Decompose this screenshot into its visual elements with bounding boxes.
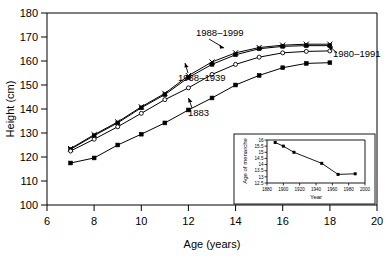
series-annotation-1883: 1883 [188, 107, 209, 118]
y-tick-label: 100 [20, 199, 38, 211]
inset-y-tick-label: 12.5 [255, 181, 264, 186]
inset-y-tick-label: 15.5 [255, 144, 264, 149]
x-tick-label: 16 [277, 215, 289, 227]
inset-x-tick-label: 2000 [360, 187, 371, 192]
x-tick-label: 10 [135, 215, 147, 227]
y-tick-label: 140 [20, 103, 38, 115]
inset-x-tick-label: 1980 [344, 187, 355, 192]
inset-y-axis-title: Age of menarche [242, 137, 248, 183]
y-tick-label: 130 [20, 127, 38, 139]
inset-x-axis-title: Year [310, 194, 322, 200]
growth-chart-svg: 180 170 160 150 140 130 120 110 100 6 8 … [0, 0, 387, 259]
x-axis-title: Age (years) [184, 238, 241, 250]
x-tick-label: 14 [229, 215, 241, 227]
inset-y-tick-label: 16 [258, 138, 264, 143]
series-annotation-1988-1999: 1988–1999 [196, 27, 244, 38]
inset-y-tick-label: 14 [258, 162, 264, 167]
inset-x-tick-label: 1940 [311, 187, 322, 192]
y-tick-label: 110 [20, 175, 38, 187]
inset-y-tick-label: 15 [258, 150, 264, 155]
x-tick-label: 6 [44, 215, 50, 227]
y-tick-label: 150 [20, 79, 38, 91]
inset-chart: 12.51313.51414.51515.5161880190019201940… [234, 134, 375, 204]
y-tick-label: 160 [20, 55, 38, 67]
inset-x-tick-label: 1880 [262, 187, 273, 192]
x-tick-label: 12 [182, 215, 194, 227]
figure-container: 180 170 160 150 140 130 120 110 100 6 8 … [0, 0, 387, 259]
inset-y-tick-label: 14.5 [255, 156, 264, 161]
y-tick-label: 120 [20, 151, 38, 163]
inset-x-tick-label: 1920 [295, 187, 306, 192]
series-annotation-1980-1991: 1980–1991 [333, 48, 381, 59]
inset-y-tick-label: 13.5 [255, 168, 264, 173]
y-tick-label: 170 [20, 31, 38, 43]
x-tick-label: 18 [324, 215, 336, 227]
y-axis-title: Height (cm) [4, 81, 16, 138]
inset-x-tick-label: 1960 [327, 187, 338, 192]
x-tick-label: 20 [371, 215, 383, 227]
series-annotation-1938-1939: 1938–1939 [178, 72, 226, 83]
y-tick-label: 180 [20, 7, 38, 19]
x-tick-label: 8 [91, 215, 97, 227]
inset-x-tick-label: 1900 [278, 187, 289, 192]
y-axis-tick-labels: 180 170 160 150 140 130 120 110 100 [20, 7, 38, 211]
inset-y-tick-label: 13 [258, 175, 264, 180]
